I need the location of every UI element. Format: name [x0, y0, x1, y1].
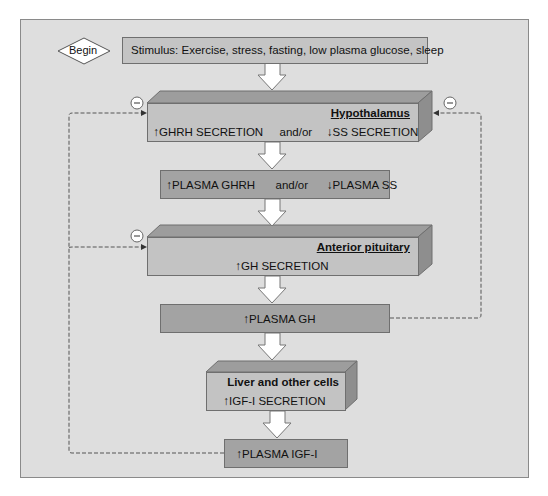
pituitary-top-face	[147, 225, 432, 237]
gh-secretion-text: GH SECRETION	[241, 260, 329, 272]
plasma-ghrh-content: ↑PLASMA GHRH and/or ↓PLASMA SS	[166, 178, 397, 192]
flow-arrow-5	[258, 333, 286, 360]
hypothalamus-title: Hypothalamus	[331, 107, 410, 119]
begin-label: Begin	[69, 44, 97, 56]
plasma-igf-box: ↑PLASMA IGF-I	[224, 439, 348, 468]
hypothalamus-content: ↑GHRH SECRETION and/or ↓SS SECRETION	[153, 125, 418, 139]
plasma-igf-content: ↑PLASMA IGF-I	[236, 447, 317, 461]
gh-feedback-line	[390, 113, 481, 318]
stimulus-text: Stimulus: Exercise, stress, fasting, low…	[131, 44, 444, 56]
igf-feedback-line	[69, 113, 224, 453]
plasma-gh-text: PLASMA GH	[249, 313, 315, 325]
plasma-gh-content: ↑PLASMA GH	[243, 312, 315, 326]
hypothalamus-box: Hypothalamus ↑GHRH SECRETION and/or ↓SS …	[147, 103, 419, 142]
plasma-ss-text: PLASMA SS	[333, 179, 398, 191]
anterior-pituitary-title: Anterior pituitary	[317, 241, 410, 253]
ghrh-secretion-text: GHRH SECRETION	[159, 126, 263, 138]
plasma-gh-box: ↑PLASMA GH	[160, 304, 390, 333]
plasma-ghrh-box: ↑PLASMA GHRH and/or ↓PLASMA SS	[160, 170, 390, 199]
flow-arrow-4	[258, 276, 286, 303]
igf-secretion-text: IGF-I SECRETION	[229, 395, 325, 407]
and-or-text: and/or	[275, 179, 308, 191]
liver-box: Liver and other cells ↑IGF-I SECRETION	[206, 372, 346, 411]
flow-arrow-2	[258, 142, 286, 169]
gh-secretion-content: ↑GH SECRETION	[235, 259, 329, 273]
plasma-ghrh-text: PLASMA GHRH	[172, 179, 255, 191]
plasma-igf-text: PLASMA IGF-I	[242, 448, 317, 460]
flow-arrow-6	[263, 411, 291, 438]
liver-top-face	[206, 361, 357, 372]
igf-pituitary-branch	[69, 247, 143, 248]
anterior-pituitary-box: Anterior pituitary ↑GH SECRETION	[147, 237, 419, 276]
liver-title: Liver and other cells	[227, 376, 339, 388]
stimulus-box: Stimulus: Exercise, stress, fasting, low…	[122, 37, 428, 64]
flow-arrow-1	[258, 63, 286, 90]
ss-secretion-text: SS SECRETION	[333, 126, 419, 138]
flow-arrow-3	[258, 199, 286, 226]
and-or-text: and/or	[280, 126, 313, 138]
igf-secretion-content: ↑IGF-I SECRETION	[223, 394, 325, 408]
hypothalamus-top-face	[147, 91, 432, 103]
